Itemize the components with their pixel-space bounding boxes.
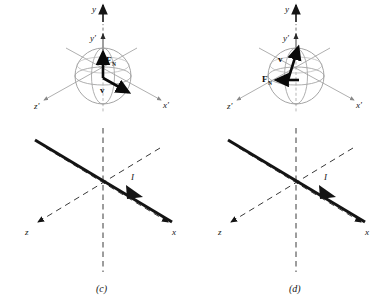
panel-d-canvas: y y′ z′ x′ v F N [193,0,385,301]
z-axis-dashed-lower [38,148,160,222]
panel-c-caption: (c) [96,283,108,295]
z-axis-label-lower: z [24,227,29,237]
panel-d-upper-group: y y′ z′ x′ v F N [226,4,363,112]
y-axis-label: y [91,4,96,14]
z-prime-axis-label: z′ [33,101,41,111]
y-prime-axis-label: y′ [282,33,290,43]
z-prime-axis-label: z′ [226,101,234,111]
z-axis-label-lower: z [217,227,222,237]
current-label: I [130,172,135,182]
panel-d-caption: (d) [289,283,301,295]
current-label: I [323,172,328,182]
x-prime-axis-label: x′ [162,100,170,110]
y-prime-axis-label: y′ [89,33,97,43]
x-axis-label-lower: x [364,227,369,237]
panel-c: y y′ z′ x′ F N [0,0,192,301]
force-vector-subscript: N [268,80,272,86]
panel-c-lower-group: z x I [24,128,176,272]
physics-figure: y y′ z′ x′ F N [0,0,385,301]
x-axis-label-lower: x [171,227,176,237]
z-prime-axis-line [237,48,330,100]
panel-d: y y′ z′ x′ v F N [193,0,385,301]
current-arrowhead [319,185,336,199]
velocity-vector-label: v [278,54,283,64]
z-prime-axis-line [44,48,137,100]
current-arrowhead [126,185,143,199]
y-axis-label: y [284,4,289,14]
panel-c-canvas: y y′ z′ x′ F N [0,0,192,301]
force-vector-subscript: N [112,61,116,67]
z-axis-dashed-lower [231,148,353,222]
x-prime-axis-label: x′ [355,100,363,110]
velocity-vector-label: v [100,85,105,95]
panel-d-lower-group: z x I [217,128,369,272]
panel-c-upper-group: y y′ z′ x′ F N [33,4,170,112]
